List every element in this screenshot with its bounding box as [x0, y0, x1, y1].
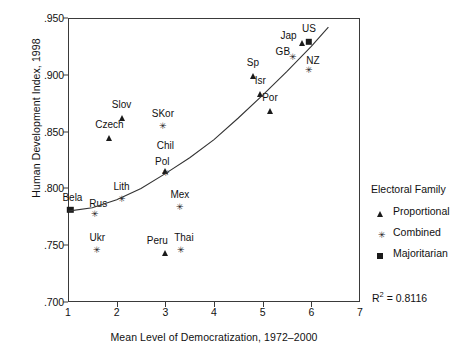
- x-tick-label: 5: [260, 306, 266, 318]
- marker-asterisk-icon: ✳: [377, 232, 386, 241]
- legend-item-label: Combined: [393, 226, 441, 238]
- x-tick-label: 3: [162, 306, 168, 318]
- legend-item-proportional: Proportional: [371, 204, 459, 225]
- r2-annotation: R2 = 0.8116: [372, 290, 427, 304]
- legend-symbol: [377, 253, 383, 259]
- y-tick-label: .750: [0, 239, 64, 251]
- legend-item-majoritarian: Majoritarian: [371, 246, 459, 267]
- x-tick-mark: [165, 302, 166, 307]
- legend-item-combined: ✳Combined: [371, 225, 459, 246]
- y-tick-label: .950: [0, 12, 64, 24]
- x-tick-mark: [311, 302, 312, 307]
- marker-triangle-icon: [377, 211, 383, 217]
- legend-symbol: [377, 211, 383, 217]
- x-tick-label: 4: [211, 306, 217, 318]
- x-tick-label: 6: [308, 306, 314, 318]
- y-tick-label: .900: [0, 69, 64, 81]
- y-axis-title: Human Development Index, 1998: [30, 0, 42, 238]
- y-tick-label: .850: [0, 126, 64, 138]
- legend-item-label: Majoritarian: [393, 247, 448, 259]
- legend: Electoral Family Proportional✳CombinedMa…: [371, 183, 459, 267]
- x-tick-label: 7: [357, 306, 363, 318]
- x-tick-label: 1: [65, 306, 71, 318]
- y-tick-label: .700: [0, 296, 64, 308]
- y-tick-label: .800: [0, 182, 64, 194]
- x-tick-mark: [263, 302, 264, 307]
- legend-item-label: Proportional: [393, 205, 450, 217]
- x-tick-label: 2: [114, 306, 120, 318]
- legend-title: Electoral Family: [371, 183, 459, 195]
- x-axis-title: Mean Level of Democratization, 1972–2000: [68, 331, 360, 343]
- scatter-plot-figure: Human Development Index, 1998 Mean Level…: [0, 0, 462, 353]
- x-tick-mark: [214, 302, 215, 307]
- marker-square-icon: [377, 253, 383, 259]
- fitted-curve: [68, 18, 360, 302]
- x-tick-mark: [117, 302, 118, 307]
- legend-symbol: ✳: [377, 232, 386, 241]
- legend-items: Proportional✳CombinedMajoritarian: [371, 204, 459, 267]
